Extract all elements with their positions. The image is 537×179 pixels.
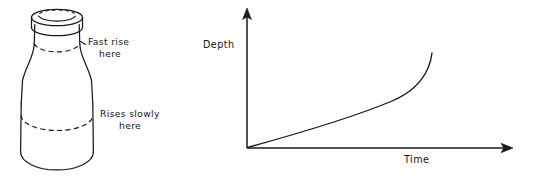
x-axis-label: Time — [403, 154, 429, 165]
y-axis-label: Depth — [203, 39, 234, 50]
bottle-cap-bottom-arc — [32, 28, 83, 36]
diagram-canvas: Fast rise here Rises slowly here Depth T… — [0, 0, 537, 179]
neck-annotation-line2: here — [99, 48, 121, 59]
bottle-neck-right-edge — [79, 25, 80, 45]
depth-vs-time-curve — [248, 53, 433, 148]
bottle-base-arc — [21, 152, 94, 170]
bottle-left-shoulder — [21, 45, 34, 105]
milk-bottle — [21, 9, 94, 170]
body-annotation-line2: here — [119, 120, 141, 131]
body-annotation-line1: Rises slowly — [100, 108, 160, 119]
neck-annotation-line1: Fast rise — [88, 36, 129, 47]
bottle-annotation-body: Rises slowly here — [100, 108, 160, 131]
figure-container: Fast rise here Rises slowly here Depth T… — [0, 0, 537, 179]
bottle-body-level-dashed — [21, 115, 93, 131]
bottle-neck-level-dashed — [34, 44, 79, 52]
bottle-rim-inner-arc — [39, 16, 76, 21]
bottle-annotation-neck: Fast rise here — [88, 36, 129, 59]
bottle-right-shoulder — [80, 45, 93, 105]
neck-label-leader — [81, 42, 86, 45]
bottle-left-side — [21, 104, 22, 152]
bottle-right-side — [93, 104, 94, 152]
bottle-neck-left-edge — [34, 25, 35, 45]
depth-time-chart: Depth Time — [203, 8, 513, 165]
